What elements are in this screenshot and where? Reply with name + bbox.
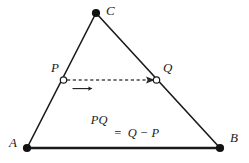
vertex-label-p: P xyxy=(51,61,59,74)
vertex-marker-A xyxy=(23,144,31,152)
vector-overbar-arrow-icon xyxy=(72,86,93,91)
vertex-marker-C xyxy=(92,9,100,17)
vertex-label-a: A xyxy=(9,136,17,149)
vertex-label-c: C xyxy=(106,4,115,17)
vector-pq-text: PQ xyxy=(91,114,108,127)
vertex-label-q: Q xyxy=(163,61,172,74)
vertex-label-b: B xyxy=(230,131,238,144)
vector-formula: PQ = Q − P xyxy=(72,86,159,139)
vertex-marker-B xyxy=(216,144,224,152)
formula-right-side: Q − P xyxy=(128,127,159,140)
vertex-marker-P xyxy=(60,77,66,83)
vector-pq-term: PQ xyxy=(72,86,107,139)
vertex-marker-Q xyxy=(153,77,159,83)
geometry-figure: A B C P Q PQ = Q − P xyxy=(0,0,249,163)
formula-equals: = xyxy=(113,127,121,140)
